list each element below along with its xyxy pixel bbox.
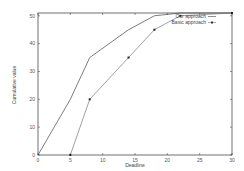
y-axis-label: Cumulative value (11, 66, 17, 105)
x-tick-label: 25 (197, 157, 203, 163)
data-point-marker (231, 12, 233, 14)
series-line-1 (70, 13, 232, 155)
series-line-0 (38, 13, 232, 155)
x-axis-label: Deadline (125, 162, 145, 168)
x-tick-label: 30 (229, 157, 235, 163)
y-tick-label: 40 (29, 40, 35, 46)
y-tick-label: 10 (29, 124, 35, 130)
plot-frame (38, 13, 232, 155)
data-point-marker (89, 98, 91, 100)
x-tick-label: 10 (100, 157, 106, 163)
x-tick-label: 0 (37, 157, 40, 163)
data-point-marker (69, 154, 71, 156)
data-point-marker (128, 57, 130, 59)
legend: Our approach Basic approach (172, 13, 216, 25)
axis-ticks: 05101520253001020304050 (29, 13, 235, 163)
y-tick-label: 0 (32, 152, 35, 158)
y-tick-label: 20 (29, 96, 35, 102)
legend-label-basic-approach: Basic approach (172, 19, 207, 25)
x-tick-label: 20 (165, 157, 171, 163)
y-tick-label: 30 (29, 68, 35, 74)
data-point-marker (153, 29, 155, 31)
x-tick-label: 5 (69, 157, 72, 163)
y-tick-label: 50 (29, 13, 35, 19)
line-chart: 05101520253001020304050 Deadline Cumulat… (0, 0, 244, 171)
plot-border (38, 13, 232, 155)
legend-marker-basic-approach (211, 22, 213, 24)
data-series (38, 12, 233, 156)
